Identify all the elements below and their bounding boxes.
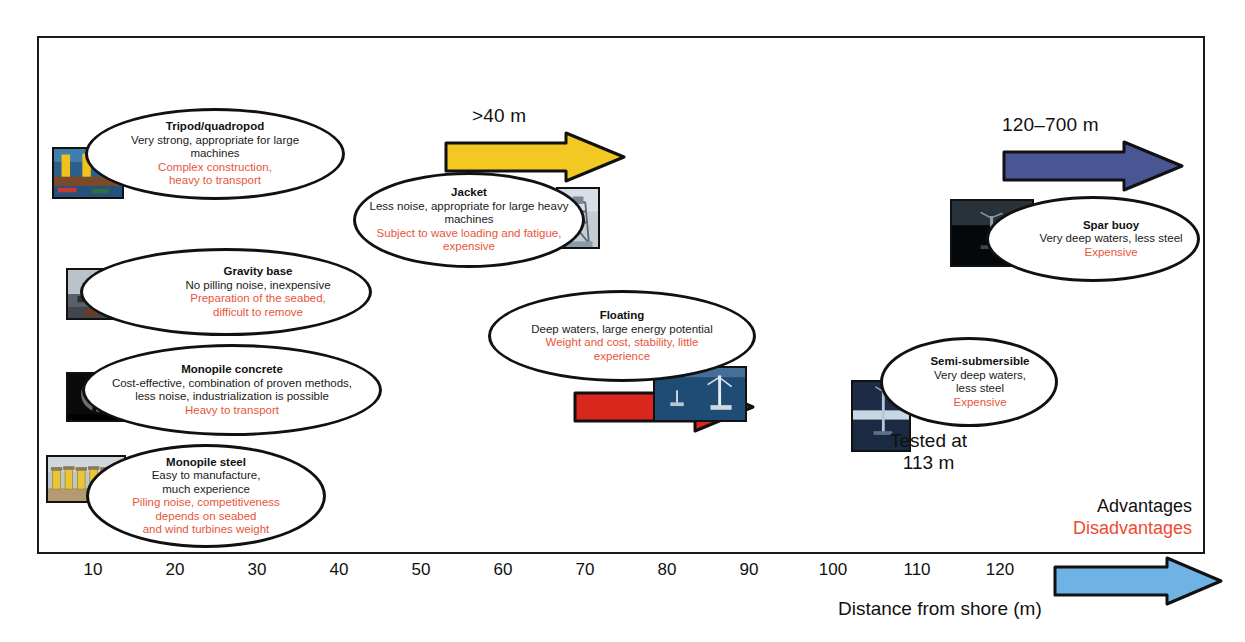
bubble-disadvantage-line: heavy to transport bbox=[88, 174, 342, 188]
bubble-jacket[interactable]: Jacket Less noise, appropriate for large… bbox=[353, 172, 585, 268]
axis-tick-70: 70 bbox=[576, 560, 595, 580]
bubble-advantage-line: less steel bbox=[894, 382, 1066, 396]
bubble-tripod[interactable]: Tripod/quadropod Very strong, appropriat… bbox=[85, 108, 345, 200]
axis-tick-90: 90 bbox=[740, 560, 759, 580]
bubble-advantage-line: No pilling noise, inexpensive bbox=[115, 279, 401, 293]
bubble-disadvantage-line: Weight and cost, stability, little bbox=[491, 336, 753, 350]
bubble-title: Monopile concrete bbox=[85, 363, 379, 377]
bubble-title: Spar buoy bbox=[1007, 219, 1215, 233]
bubble-disadvantage-line: difficult to remove bbox=[115, 306, 401, 320]
bubble-title: Tripod/quadropod bbox=[88, 120, 342, 134]
legend-advantages: Advantages bbox=[960, 495, 1192, 517]
bubble-advantage-line: Very deep waters, bbox=[894, 369, 1066, 383]
bubble-advantage-line: machines bbox=[349, 213, 589, 227]
tested-at-line2: 113 m bbox=[890, 452, 967, 474]
bubble-monopile-steel[interactable]: Monopile steel Easy to manufacture, much… bbox=[86, 444, 326, 548]
axis-tick-60: 60 bbox=[494, 560, 513, 580]
bubble-title: Jacket bbox=[349, 186, 589, 200]
axis-tick-80: 80 bbox=[658, 560, 677, 580]
bubble-title: Floating bbox=[491, 309, 753, 323]
bubble-advantage-line: Less noise, appropriate for large heavy bbox=[349, 200, 589, 214]
bubble-disadvantage-line: Subject to wave loading and fatigue, bbox=[349, 227, 589, 241]
legend-disadvantages: Disadvantages bbox=[960, 517, 1192, 539]
bubble-semi-submersible[interactable]: Semi-submersible Very deep waters, less … bbox=[880, 337, 1058, 427]
arrow-yellow-label: >40 m bbox=[472, 105, 526, 127]
diagram-stage: >40 m >50 m 120–700 m bbox=[0, 0, 1245, 642]
bubble-advantage-line: Deep waters, large energy potential bbox=[491, 323, 753, 337]
bubble-advantage-line: Very strong, appropriate for large bbox=[88, 134, 342, 148]
bubble-advantage-line: Very deep waters, less steel bbox=[1007, 232, 1215, 246]
arrow-lightblue-axis bbox=[1053, 556, 1223, 606]
axis-tick-100: 100 bbox=[819, 560, 847, 580]
axis-tick-30: 30 bbox=[248, 560, 267, 580]
bubble-disadvantage-line: and wind turbines weight bbox=[89, 523, 323, 537]
axis-tick-50: 50 bbox=[412, 560, 431, 580]
axis-title-distance: Distance from shore (m) bbox=[838, 598, 1042, 620]
bubble-disadvantage-line: Complex construction, bbox=[88, 161, 342, 175]
bubble-disadvantage-line: Piling noise, competitiveness bbox=[89, 496, 323, 510]
tested-at-note: Tested at 113 m bbox=[890, 430, 967, 474]
bubble-advantage-line: machines bbox=[88, 147, 342, 161]
bubble-floating[interactable]: Floating Deep waters, large energy poten… bbox=[488, 290, 756, 382]
bubble-disadvantage-line: Heavy to transport bbox=[85, 404, 379, 418]
arrow-darkblue-label: 120–700 m bbox=[1002, 114, 1099, 136]
bubble-disadvantage-line: Expensive bbox=[1007, 246, 1215, 260]
axis-tick-20: 20 bbox=[166, 560, 185, 580]
axis-tick-40: 40 bbox=[330, 560, 349, 580]
bubble-spar-buoy[interactable]: Spar buoy Very deep waters, less steel E… bbox=[986, 196, 1200, 282]
axis-tick-120: 120 bbox=[986, 560, 1014, 580]
bubble-disadvantage-line: Preparation of the seabed, bbox=[115, 292, 401, 306]
bubble-advantage-line: Cost-effective, combination of proven me… bbox=[85, 377, 379, 391]
bubble-monopile-concrete[interactable]: Monopile concrete Cost-effective, combin… bbox=[82, 344, 382, 436]
axis-tick-110: 110 bbox=[903, 560, 930, 580]
bubble-advantage-line: less noise, industrialization is possibl… bbox=[85, 390, 379, 404]
bubble-title: Semi-submersible bbox=[894, 355, 1066, 369]
legend: Advantages Disadvantages bbox=[960, 495, 1192, 539]
arrow-darkblue-120-700m bbox=[1002, 140, 1184, 192]
bubble-advantage-line: Easy to manufacture, bbox=[89, 469, 323, 483]
bubble-disadvantage-line: expensive bbox=[349, 240, 589, 254]
bubble-disadvantage-line: Expensive bbox=[894, 396, 1066, 410]
bubble-title: Gravity base bbox=[115, 265, 401, 279]
bubble-advantage-line: much experience bbox=[89, 483, 323, 497]
bubble-disadvantage-line: depends on seabed bbox=[89, 510, 323, 524]
axis-tick-10: 10 bbox=[84, 560, 103, 580]
bubble-disadvantage-line: experience bbox=[491, 350, 753, 364]
bubble-title: Monopile steel bbox=[89, 456, 323, 470]
bubble-gravity-base[interactable]: Gravity base No pilling noise, inexpensi… bbox=[80, 248, 372, 336]
tested-at-line1: Tested at bbox=[890, 430, 967, 452]
